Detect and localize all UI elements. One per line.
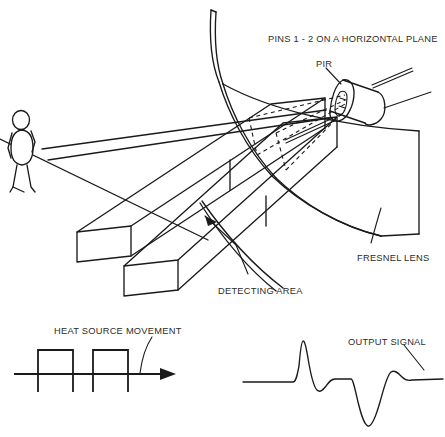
detection-arc	[200, 201, 283, 291]
detecting-area-arrow	[205, 216, 248, 274]
output-signal-waveform	[243, 341, 443, 426]
pir-diagram-figure: PINS 1 - 2 ON A HORIZONTAL PLANE PIR FRE…	[0, 0, 445, 437]
pins-note-label: PINS 1 - 2 ON A HORIZONTAL PLANE	[268, 34, 438, 44]
person-figure	[8, 111, 35, 193]
heat-source-pulse-train	[14, 337, 176, 392]
pir-label: PIR	[316, 59, 332, 69]
diagram-canvas: PINS 1 - 2 ON A HORIZONTAL PLANE PIR FRE…	[0, 0, 445, 437]
output-signal-label: OUTPUT SIGNAL	[348, 337, 426, 347]
pir-sensor	[285, 68, 431, 143]
fresnel-lens-label: FRESNEL LENS	[357, 253, 429, 263]
detecting-area-label: DETECTING AREA	[218, 286, 303, 296]
sight-lines	[0, 110, 330, 240]
heat-source-movement-label: HEAT SOURCE MOVEMENT	[54, 326, 182, 336]
